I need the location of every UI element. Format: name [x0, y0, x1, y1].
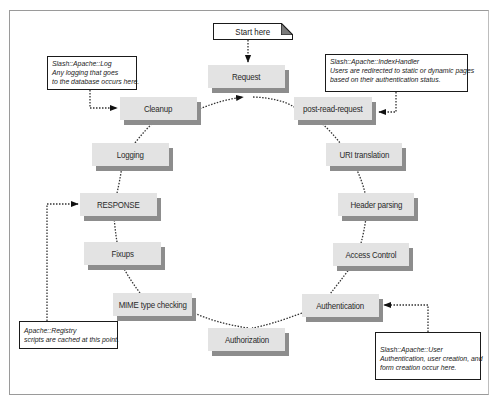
- note-title: Slash::Apache::Log: [52, 59, 121, 68]
- cycle-arc-request-postread: [253, 97, 294, 107]
- start-here-box: Start here: [213, 23, 293, 40]
- stage-label: Header parsing: [350, 200, 402, 210]
- note-title: Slash::Apache::IndexHandler: [330, 57, 444, 66]
- cycle-arc-authz-mime: [192, 312, 248, 328]
- cycle-arc-auth-authz: [252, 313, 302, 328]
- cycle-arc-postread-uri: [318, 120, 340, 143]
- note-registry: Apache::Registry scripts are cached at t…: [19, 321, 118, 349]
- cycle-arc-access-auth: [330, 268, 350, 294]
- note-line: Authentication, user creation, and: [380, 354, 463, 363]
- note-line: form creation occur here.: [380, 363, 463, 372]
- cycle-arc-fixups-response: [114, 216, 117, 242]
- stage-response: RESPONSE: [80, 193, 157, 216]
- note-title: Apache::Registry: [24, 326, 101, 335]
- stage-label: Fixups: [111, 249, 133, 259]
- note-line: Users are redirected to static or dynami…: [330, 66, 444, 75]
- stage-label: URI translation: [339, 150, 389, 160]
- stage-authorization: Authorization: [208, 328, 285, 351]
- note-line: to the database occurs here.: [52, 77, 121, 86]
- stage-post-read-request: post-read-request: [294, 97, 372, 120]
- note-indexhandler: Slash::Apache::IndexHandler Users are re…: [325, 54, 468, 92]
- log-note-arrow: [90, 90, 117, 108]
- stage-request: Request: [208, 65, 285, 88]
- note-line: Any logging that goes: [52, 68, 121, 77]
- note-log: Slash::Apache::Log Any logging that goes…: [47, 56, 137, 90]
- user-note-arrow: [384, 305, 428, 332]
- stage-label: Cleanup: [144, 104, 172, 114]
- stage-label: Request: [232, 72, 260, 82]
- stage-label: Authentication: [317, 301, 365, 311]
- stage-uri-translation: URI translation: [326, 143, 402, 166]
- indexhandler-note-arrow: [379, 92, 396, 112]
- registry-note-arrow: [47, 204, 78, 321]
- cycle-arc-logging-cleanup: [135, 121, 155, 143]
- note-line: scripts are cached at this point.: [24, 335, 101, 344]
- stage-label: RESPONSE: [97, 200, 140, 210]
- cycle-arc-response-logging: [117, 166, 122, 193]
- stage-header-parsing: Header parsing: [338, 193, 414, 216]
- start-here-label: Start here: [236, 27, 271, 37]
- note-line: based on their authentication status.: [330, 75, 444, 84]
- note-title: Slash::Apache::User: [380, 345, 463, 354]
- stage-label: Authorization: [225, 335, 269, 345]
- stage-label: post-read-request: [303, 104, 363, 114]
- cycle-arc-header-access: [361, 218, 366, 243]
- stage-fixups: Fixups: [84, 242, 161, 265]
- note-user: Slash::Apache::User Authentication, user…: [375, 332, 481, 380]
- stage-access-control: Access Control: [333, 243, 409, 266]
- stage-label: MIME type checking: [118, 300, 186, 310]
- folded-corner-icon: [281, 23, 293, 35]
- stage-mime-type-checking: MIME type checking: [113, 293, 192, 316]
- stage-logging: Logging: [92, 143, 169, 166]
- cycle-arc-uri-header: [355, 166, 365, 193]
- cycle-arc-mime-fixups: [122, 265, 140, 293]
- stage-cleanup: Cleanup: [120, 97, 197, 120]
- stage-label: Access Control: [346, 250, 397, 260]
- cycle-arc-cleanup-request: [197, 97, 243, 110]
- stage-label: Logging: [117, 150, 144, 160]
- stage-authentication: Authentication: [302, 294, 379, 317]
